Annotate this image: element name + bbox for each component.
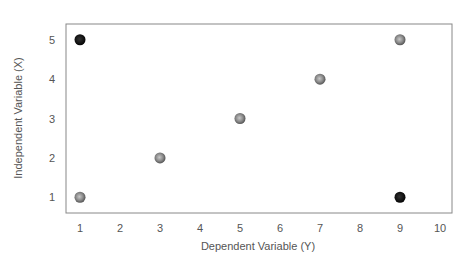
y-tick-label: 3: [49, 113, 55, 125]
data-point: [235, 113, 246, 124]
data-point: [155, 152, 166, 163]
y-tick-label: 4: [49, 73, 55, 85]
x-tick-label: 5: [237, 222, 243, 234]
x-axis-label: Dependent Variable (Y): [201, 240, 315, 252]
scatter-chart: 12345678910 12345 Dependent Variable (Y)…: [0, 0, 467, 268]
y-tick-labels: 12345: [49, 34, 55, 204]
data-point-highlight: [75, 34, 86, 45]
data-point-highlight: [395, 192, 406, 203]
plot-frame: [66, 24, 452, 213]
x-tick-label: 7: [317, 222, 323, 234]
x-tick-label: 2: [117, 222, 123, 234]
x-tick-label: 6: [277, 222, 283, 234]
x-tick-label: 3: [157, 222, 163, 234]
x-tick-label: 8: [357, 222, 363, 234]
x-tick-label: 1: [77, 222, 83, 234]
data-point: [315, 74, 326, 85]
x-tick-label: 10: [434, 222, 446, 234]
data-point: [75, 192, 86, 203]
x-tick-labels: 12345678910: [77, 222, 446, 234]
x-tick-label: 9: [397, 222, 403, 234]
data-points: [75, 34, 406, 203]
y-axis-label: Independent Variable (X): [12, 57, 24, 179]
data-point: [395, 34, 406, 45]
y-tick-label: 5: [49, 34, 55, 46]
y-tick-label: 2: [49, 152, 55, 164]
x-tick-label: 4: [197, 222, 203, 234]
y-tick-label: 1: [49, 191, 55, 203]
